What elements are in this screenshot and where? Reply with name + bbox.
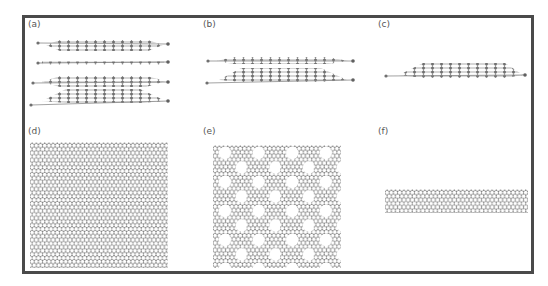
panel-label-f: (f) [378, 127, 388, 136]
layer-2 [36, 60, 169, 64]
layer-3 [31, 76, 169, 87]
panel-label-e: (e) [203, 127, 216, 136]
layer-1 [36, 40, 169, 51]
panel-label-b: (b) [203, 20, 216, 29]
layer-4 [29, 89, 169, 107]
panel-label-d: (d) [28, 127, 41, 136]
panel-a-layered-structure [28, 32, 178, 112]
panel-b-layered-structure [203, 50, 363, 90]
panel-c-single-layer [383, 58, 528, 83]
panel-label-c: (c) [378, 20, 390, 29]
panel-f-nanoribbon [385, 189, 528, 213]
layer-1 [206, 57, 354, 64]
panel-e-porous-lattice [213, 145, 341, 268]
layer-2 [205, 68, 354, 85]
panel-d-pristine-lattice [30, 142, 168, 268]
panel-label-a: (a) [28, 20, 41, 29]
